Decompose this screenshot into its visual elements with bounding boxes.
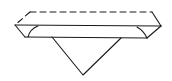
visible-edges — [15, 12, 161, 38]
right-flap-inner-fold — [137, 27, 147, 38]
hidden-edges — [15, 12, 152, 25]
left-flap-inner-fold — [28, 26, 38, 37]
folded-tray-drawing — [0, 0, 172, 81]
left-flap-outer-edge — [15, 25, 25, 37]
right-flap-outer-edge — [147, 26, 161, 38]
diagram-canvas — [0, 0, 172, 81]
bottom-edge — [25, 37, 147, 38]
back-right-edge — [152, 12, 161, 26]
back-left-edge — [15, 12, 30, 25]
downward-triangle — [52, 37, 121, 75]
